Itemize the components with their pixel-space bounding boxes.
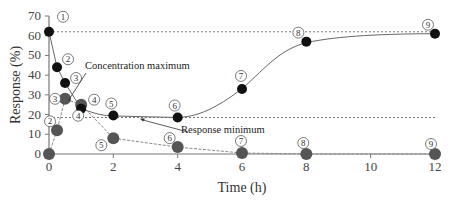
y-tick-label: 70	[28, 8, 41, 23]
point-number: 9	[429, 139, 434, 149]
point-number: 4	[76, 111, 81, 121]
point-number: 5	[109, 99, 114, 109]
x-tick-label: 8	[303, 159, 310, 174]
response-point	[173, 113, 183, 123]
y-tick-label: 50	[28, 47, 41, 62]
concentration-point	[172, 141, 184, 153]
y-tick-label: 30	[28, 87, 41, 102]
point-number: 6	[172, 101, 177, 111]
y-tick-label: 60	[28, 28, 41, 43]
y-axis-title: Response (%)	[8, 46, 24, 124]
x-tick-label: 6	[239, 159, 246, 174]
response-point	[44, 27, 54, 37]
point-number: 7	[239, 136, 244, 146]
response-point	[52, 62, 62, 72]
response-point	[430, 29, 440, 39]
point-number: 8	[296, 28, 301, 38]
response-point	[301, 37, 311, 47]
point-number: 8	[301, 138, 306, 148]
point-number: 9	[426, 20, 431, 30]
y-tick-label: 20	[28, 107, 41, 122]
point-number: 2	[48, 116, 53, 126]
pk-pd-chart: 024681012010203040506070 123456789234567…	[0, 0, 454, 201]
point-number: 3	[53, 94, 58, 104]
concentration-point	[236, 147, 248, 159]
x-tick-label: 4	[174, 159, 181, 174]
y-tick-label: 0	[35, 146, 42, 161]
axes: 024681012010203040506070	[28, 8, 442, 174]
response-point	[60, 78, 70, 88]
x-tick-label: 10	[364, 159, 377, 174]
point-number: 7	[239, 71, 244, 81]
x-tick-label: 12	[429, 159, 442, 174]
point-number: 3	[74, 73, 79, 83]
concentration-point	[43, 148, 55, 160]
concentration-max-label: Concentration maximum	[85, 60, 190, 71]
point-number: 6	[167, 133, 172, 143]
data-series: 12345678923456789	[43, 11, 441, 160]
x-axis-title: Time (h)	[218, 180, 267, 196]
x-tick-label: 0	[46, 159, 53, 174]
response-point	[108, 111, 118, 121]
concentration-point	[300, 148, 312, 160]
point-number: 1	[61, 12, 66, 22]
y-tick-label: 40	[28, 67, 41, 82]
y-tick-label: 10	[28, 126, 41, 141]
response-point	[237, 84, 247, 94]
point-number: 5	[99, 140, 104, 150]
concentration-point	[107, 132, 119, 144]
point-number: 4	[92, 95, 97, 105]
response-min-label: Response minimum	[181, 124, 265, 135]
x-tick-label: 2	[110, 159, 117, 174]
point-number: 2	[66, 54, 71, 64]
